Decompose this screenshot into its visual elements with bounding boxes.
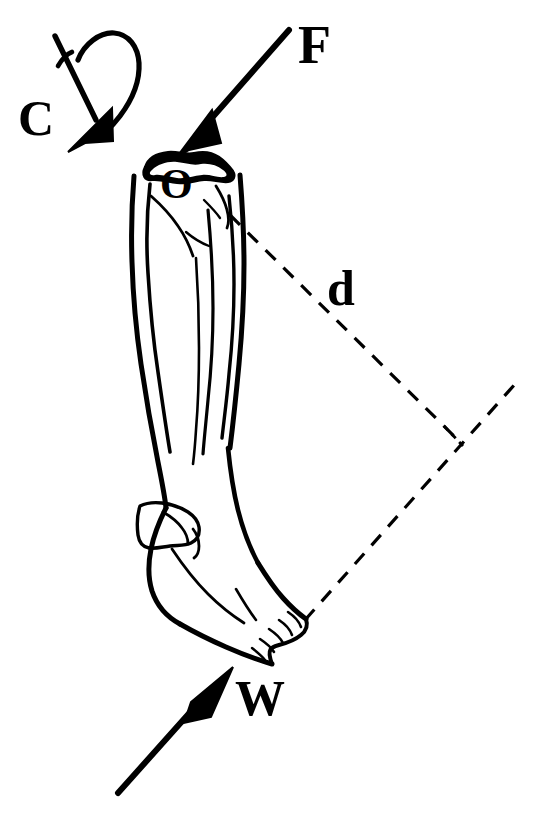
- w-line-of-action-extension: [305, 383, 516, 620]
- malleolus-notch-detail: [163, 512, 188, 544]
- heel-posterior-contour: [149, 508, 180, 624]
- couple-vector-C-shaft: [55, 36, 96, 120]
- midfoot-arch-crease: [172, 549, 244, 623]
- weight-vector-W-arrowhead: [184, 667, 233, 723]
- joint-center-label-O: O: [160, 163, 193, 205]
- biomechanics-figure: F C d W O: [0, 0, 534, 814]
- leg-anatomy-group: [132, 152, 307, 664]
- toe-line-2: [279, 620, 292, 635]
- foot-dorsum-contour: [258, 563, 306, 619]
- weight-vector-W-group: [118, 667, 233, 793]
- right-angle-tick-icon: [444, 426, 463, 446]
- weight-label-W: W: [235, 673, 285, 723]
- tibia-fibula-interosseous-line-b: [193, 258, 199, 464]
- moment-arm-label-d: d: [327, 263, 355, 313]
- force-vector-F-arrowhead: [176, 110, 221, 158]
- toe-line-3: [269, 629, 283, 643]
- fibula-inner-shaft: [222, 196, 234, 438]
- ankle-anterior-contour: [228, 448, 258, 563]
- knee-condyle-detail-2: [216, 186, 229, 228]
- moment-arm-construction-group: [230, 215, 516, 620]
- moment-arm-d-line: [230, 215, 455, 437]
- forefoot-crease: [236, 589, 256, 620]
- couple-vector-C-group: [55, 33, 139, 152]
- knee-condyle-detail-3: [204, 200, 220, 218]
- toe-line-4: [260, 639, 274, 652]
- medial-malleolus-outline: [137, 503, 199, 549]
- foot-plantar-sole: [180, 624, 272, 664]
- couple-label-C: C: [18, 93, 54, 143]
- force-vector-F-group: [176, 30, 289, 158]
- weight-vector-W-shaft: [118, 709, 193, 793]
- force-label-F: F: [298, 18, 331, 72]
